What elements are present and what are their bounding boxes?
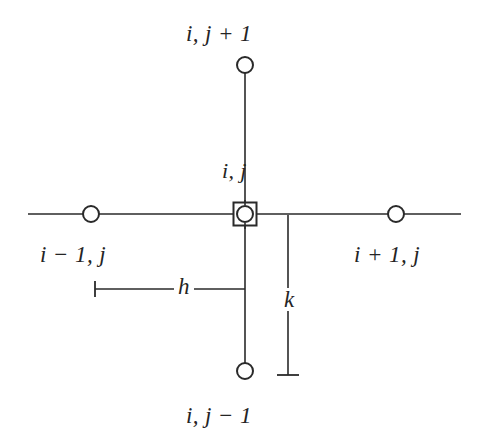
top-node-label: i, j + 1 (186, 22, 252, 45)
stencil-diagram (0, 0, 485, 443)
figure-canvas: i, j + 1 i, j i − 1, j i + 1, j i, j − 1… (0, 0, 485, 443)
right-node-label: i + 1, j (354, 243, 420, 266)
center-node-label: i, j (222, 160, 247, 182)
right-node-marker (388, 206, 404, 222)
h-dimension-label: h (174, 275, 194, 298)
bottom-node-label: i, j − 1 (186, 404, 252, 427)
left-node-marker (83, 206, 99, 222)
bottom-node-marker (237, 363, 253, 379)
k-dimension-label: k (281, 288, 298, 311)
left-node-label: i − 1, j (40, 243, 106, 266)
center-node-circle-marker (237, 206, 253, 222)
top-node-marker (237, 57, 253, 73)
